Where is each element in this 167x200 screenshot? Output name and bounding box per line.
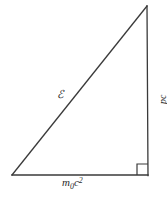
base-side-label-rest-energy: m0c2	[62, 177, 83, 190]
vertical-side-label-pc: pc	[158, 95, 167, 104]
base-label-superscript-two: 2	[79, 176, 83, 185]
right-angle-marker-icon	[137, 164, 148, 175]
triangle-drawing	[0, 0, 167, 200]
triangle-vertical-edge	[147, 6, 148, 176]
hypotenuse-label-energy: ℰ	[57, 89, 64, 100]
base-label-m: m	[62, 176, 70, 188]
energy-momentum-triangle-figure: ℰ pc m0c2	[0, 0, 167, 200]
triangle-hypotenuse-edge	[12, 6, 147, 175]
